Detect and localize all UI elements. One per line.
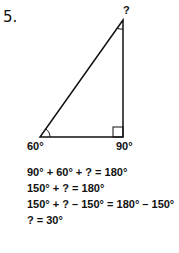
equation-line: ? = 30°: [27, 212, 174, 228]
label-90-angle: 90°: [116, 140, 133, 152]
solution-steps: 90° + 60° + ? = 180° 150° + ? = 180° 150…: [27, 164, 174, 228]
equation-line: 90° + 60° + ? = 180°: [27, 164, 174, 180]
equation-line: 150° + ? – 150° = 180° – 150°: [27, 196, 174, 212]
angle-arc-unknown: [117, 28, 123, 29]
triangle-outline: [40, 20, 123, 137]
right-angle-marker: [113, 127, 123, 137]
label-60-angle: 60°: [27, 140, 44, 152]
equation-line: 150° + ? = 180°: [27, 180, 174, 196]
label-unknown-angle: ?: [123, 4, 130, 16]
angle-arc-60: [46, 129, 50, 137]
